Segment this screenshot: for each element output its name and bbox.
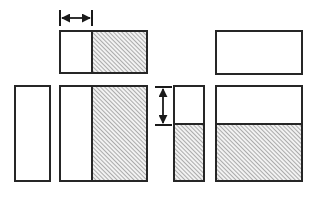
rectangle-partition-diagram [0, 0, 314, 197]
bottom-middle-rectangle-unshaded-part [174, 86, 204, 124]
bottom-right-rectangle-unshaded-part [216, 86, 302, 124]
top-left-rectangle-unshaded-part [60, 31, 92, 73]
bottom-far-left-rectangle [15, 86, 50, 181]
bottom-right-rectangle [216, 86, 302, 181]
bottom-left-rectangle [60, 86, 147, 181]
bottom-left-rectangle-unshaded-part [60, 86, 92, 181]
bottom-left-rectangle-hatched-part [92, 86, 147, 181]
top-right-rectangle [216, 31, 302, 74]
bottom-middle-rectangle [174, 86, 204, 181]
bottom-right-rectangle-hatched-part [216, 124, 302, 181]
top-left-rectangle [60, 31, 147, 73]
figure-canvas [0, 0, 314, 197]
bottom-far-left-rectangle-unshaded-part [15, 86, 50, 181]
bottom-middle-rectangle-hatched-part [174, 124, 204, 181]
top-left-rectangle-hatched-part [92, 31, 147, 73]
top-right-rectangle-unshaded-part [216, 31, 302, 74]
